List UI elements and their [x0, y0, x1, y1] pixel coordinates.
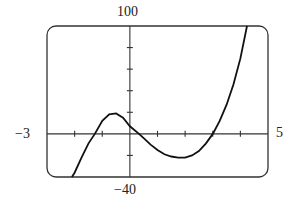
- xmin-label: −3: [15, 127, 30, 141]
- xmax-label: 5: [276, 126, 283, 140]
- axes: [47, 26, 268, 177]
- ymin-label: −40: [114, 183, 136, 197]
- graph: [0, 0, 293, 204]
- ymax-label: 100: [117, 5, 138, 19]
- viewing-window-frame: [47, 26, 268, 177]
- function-curve: [72, 26, 247, 177]
